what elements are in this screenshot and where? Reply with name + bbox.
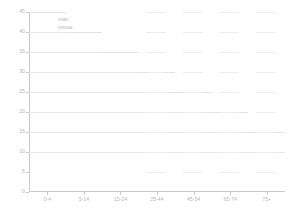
y-tick-label-35: 35 bbox=[19, 49, 25, 54]
gridline-dash bbox=[146, 52, 166, 53]
gridline-dash bbox=[146, 132, 166, 133]
x-tick-1 bbox=[84, 192, 85, 195]
gridline-dash bbox=[219, 152, 239, 153]
gridline-dash bbox=[219, 92, 239, 93]
y-axis-line bbox=[29, 12, 30, 192]
gridline-dash bbox=[219, 112, 239, 113]
y-tick-label-30: 30 bbox=[19, 69, 25, 74]
y-tick-label-15: 15 bbox=[19, 129, 25, 134]
gridline-dash bbox=[183, 132, 203, 133]
x-tick-0 bbox=[47, 192, 48, 195]
gridline-dash bbox=[146, 112, 166, 113]
x-tick-5 bbox=[230, 192, 231, 195]
gridline-dash bbox=[183, 172, 203, 173]
plot-area: 051015202530354045 0-45-1415-2425-4445-5… bbox=[29, 12, 285, 192]
gridline-dash bbox=[256, 52, 276, 53]
series-segment bbox=[29, 132, 248, 133]
gridline-dash bbox=[219, 132, 239, 133]
gridline-dash bbox=[183, 152, 203, 153]
gridline-dash bbox=[183, 92, 203, 93]
x-tick-6 bbox=[267, 192, 268, 195]
x-tick-label-3: 25-44 bbox=[150, 197, 163, 202]
chart-container: 051015202530354045 0-45-1415-2425-4445-5… bbox=[0, 0, 297, 220]
gridline-dash bbox=[183, 112, 203, 113]
gridline-dash bbox=[146, 152, 166, 153]
x-tick-4 bbox=[194, 192, 195, 195]
gridline-dash bbox=[219, 32, 239, 33]
series-segment bbox=[29, 12, 66, 13]
gridline-dash bbox=[183, 52, 203, 53]
gridline-dash bbox=[256, 32, 276, 33]
gridline-dash bbox=[183, 12, 203, 13]
y-tick-label-45: 45 bbox=[19, 9, 25, 14]
y-tick-label-5: 5 bbox=[22, 169, 25, 174]
gridline-dash bbox=[219, 12, 239, 13]
gridline-dash bbox=[146, 72, 166, 73]
legend-item-vrouw: vrouw bbox=[58, 23, 72, 31]
y-tick-label-20: 20 bbox=[19, 109, 25, 114]
x-tick-2 bbox=[120, 192, 121, 195]
gridline-dash bbox=[146, 92, 166, 93]
gridline-dash bbox=[219, 52, 239, 53]
y-tick-label-10: 10 bbox=[19, 149, 25, 154]
chart-legend: man vrouw bbox=[58, 15, 72, 32]
gridline-dash bbox=[183, 32, 203, 33]
gridline-dash bbox=[146, 12, 166, 13]
x-tick-label-2: 15-24 bbox=[114, 197, 127, 202]
x-tick-label-1: 5-14 bbox=[79, 197, 89, 202]
x-tick-label-0: 0-4 bbox=[44, 197, 52, 202]
x-tick-label-4: 45-54 bbox=[187, 197, 200, 202]
y-tick-label-25: 25 bbox=[19, 89, 25, 94]
series-segment bbox=[29, 32, 66, 33]
y-tick-0 bbox=[26, 192, 29, 193]
gridline-dash bbox=[256, 92, 276, 93]
gridline-dash bbox=[256, 112, 276, 113]
series-segment bbox=[29, 72, 139, 73]
y-tick-5 bbox=[26, 172, 29, 173]
gridline-dash bbox=[146, 32, 166, 33]
x-tick-label-6: 75+ bbox=[262, 197, 271, 202]
gridline-dash bbox=[146, 172, 166, 173]
y-tick-label-0: 0 bbox=[22, 189, 25, 194]
gridline-dash bbox=[256, 172, 276, 173]
x-tick-3 bbox=[157, 192, 158, 195]
gridline-dash bbox=[256, 12, 276, 13]
gridline-dash bbox=[256, 132, 276, 133]
gridline-dash bbox=[256, 152, 276, 153]
gridline-dash bbox=[219, 172, 239, 173]
gridline-dash bbox=[183, 72, 203, 73]
gridline-dash bbox=[256, 72, 276, 73]
gridline-dash bbox=[219, 72, 239, 73]
legend-item-man: man bbox=[58, 15, 72, 23]
series-segment bbox=[29, 52, 102, 53]
y-tick-label-40: 40 bbox=[19, 29, 25, 34]
x-tick-label-5: 65-74 bbox=[224, 197, 237, 202]
